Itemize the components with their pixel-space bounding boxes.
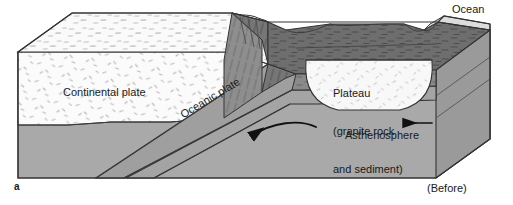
figure-container: Ocean Continental plate Plateau (granite…	[0, 0, 513, 205]
label-continental-plate: Continental plate	[63, 86, 146, 99]
label-plateau-line3: and sediment)	[333, 163, 403, 176]
label-asthenosphere: Asthenosphere	[345, 129, 419, 142]
panel-letter: a	[14, 181, 20, 193]
label-ocean: Ocean	[452, 3, 484, 16]
caption-state: (Before)	[427, 182, 467, 195]
label-plateau-line1: Plateau	[333, 87, 403, 100]
block-diagram-svg	[0, 0, 513, 205]
